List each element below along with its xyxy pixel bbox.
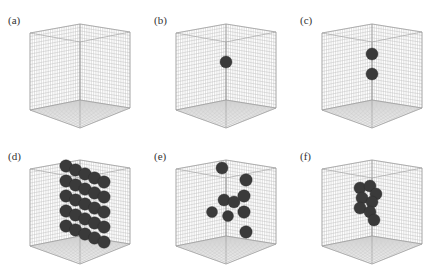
panel-d: (d) — [0, 136, 145, 272]
cube-b — [146, 0, 291, 136]
cube-a — [0, 0, 145, 136]
panel-c: (c) — [292, 0, 437, 136]
cube-d — [0, 136, 145, 272]
cube-f — [292, 136, 437, 272]
panel-b: (b) — [146, 0, 291, 136]
panel-f: (f) — [292, 136, 437, 272]
panel-a: (a) — [0, 0, 145, 136]
cube-c — [292, 0, 437, 136]
cube-e — [146, 136, 291, 272]
panel-e: (e) — [146, 136, 291, 272]
